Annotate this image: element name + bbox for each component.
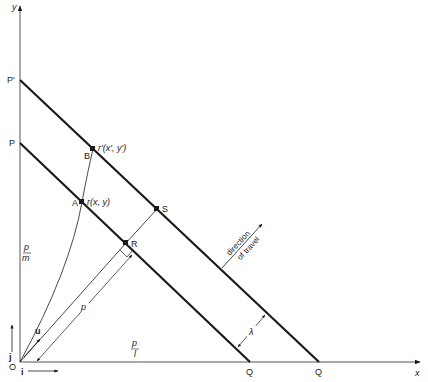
r-vector-label: r(x, y) (87, 197, 110, 207)
i-label: i (21, 367, 24, 377)
point-B (90, 146, 95, 151)
point-A (79, 199, 84, 204)
point-B-label: B (84, 151, 90, 161)
j-label: j (8, 352, 12, 362)
point-S-label: S (162, 204, 168, 214)
point-R-label: R (131, 239, 138, 249)
lambda-label: λ (248, 327, 253, 337)
u-arrow (24, 339, 40, 357)
y-intercept-numerator: p (23, 242, 29, 252)
segment-RS (126, 209, 157, 243)
y-axis-label: y (11, 2, 17, 12)
point-Qprime-label: Q (315, 367, 322, 377)
x-intercept-numerator: p (131, 338, 137, 348)
point-P-label: P (9, 138, 15, 148)
point-A-label: A (72, 198, 78, 208)
x-intercept-denominator: l (134, 349, 137, 359)
y-intercept-fraction: p m (22, 242, 31, 263)
p-label: p (80, 302, 86, 312)
x-intercept-fraction: p l (131, 338, 139, 359)
wavefront-diagram: y x O i j P P' Q Q u p A B R S r(x, y) r… (0, 0, 428, 382)
wavefront-PQ (20, 143, 250, 362)
u-label: u (35, 326, 41, 336)
r-prime-vector-label: r'(x', y') (98, 143, 126, 153)
position-curve (20, 149, 93, 362)
point-Q-label: Q (246, 367, 253, 377)
x-axis-label: x (414, 368, 420, 378)
point-R (123, 240, 128, 245)
point-Pprime-label: P' (7, 75, 15, 85)
points (79, 146, 159, 245)
origin-label: O (9, 362, 16, 372)
y-intercept-denominator: m (22, 253, 30, 263)
point-S (154, 206, 159, 211)
wavefront-PprimeQprime (20, 80, 319, 362)
